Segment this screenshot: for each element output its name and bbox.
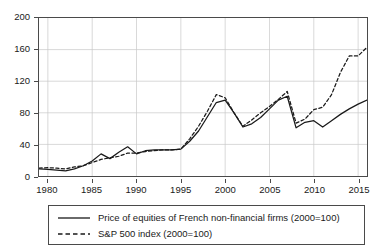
legend-line-swatch-solid xyxy=(57,213,91,223)
y-tick-label: 200 xyxy=(14,12,30,22)
x-tick-label: 1980 xyxy=(36,185,57,195)
plot-area xyxy=(38,17,368,177)
x-tick-label: 2005 xyxy=(259,185,280,195)
series-line-1 xyxy=(39,47,367,169)
legend-label: S&P 500 index (2000=100) xyxy=(98,229,212,239)
x-tick-mark xyxy=(181,179,182,183)
x-tick-mark xyxy=(47,179,48,183)
y-tick-label: 40 xyxy=(19,140,30,150)
x-tick-mark xyxy=(359,179,360,183)
legend-label: Price of equities of French non-financia… xyxy=(98,213,340,223)
x-tick-label: 1985 xyxy=(81,185,102,195)
data-series-layer xyxy=(39,18,367,176)
x-tick-label: 1995 xyxy=(170,185,191,195)
y-tick-label: 120 xyxy=(14,76,30,86)
legend-line-swatch-dashed xyxy=(57,229,91,239)
x-tick-label: 2015 xyxy=(349,185,370,195)
x-tick-mark xyxy=(136,179,137,183)
chart-legend: Price of equities of French non-financia… xyxy=(48,205,365,245)
legend-item-sp500: S&P 500 index (2000=100) xyxy=(57,226,212,241)
y-tick-label: 160 xyxy=(14,44,30,54)
x-tick-mark xyxy=(270,179,271,183)
x-tick-label: 1990 xyxy=(126,185,147,195)
y-tick-label: 80 xyxy=(19,108,30,118)
x-axis-tick-labels: 19801985199019952000200520102015 xyxy=(38,179,368,197)
y-tick-mark xyxy=(34,177,38,178)
x-tick-mark xyxy=(314,179,315,183)
line-chart-figure: 04080120160200 1980198519901995200020052… xyxy=(0,0,380,252)
x-tick-label: 2010 xyxy=(304,185,325,195)
x-tick-mark xyxy=(92,179,93,183)
legend-item-french-equities: Price of equities of French non-financia… xyxy=(57,210,340,225)
series-line-0 xyxy=(39,96,367,171)
y-axis-tick-labels: 04080120160200 xyxy=(0,17,34,177)
y-tick-label: 0 xyxy=(25,172,30,182)
x-tick-label: 2000 xyxy=(215,185,236,195)
x-tick-mark xyxy=(225,179,226,183)
